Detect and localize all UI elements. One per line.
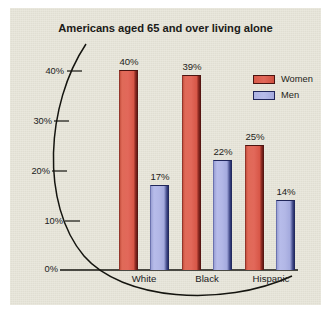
value-label-hispanic-women: 25% (235, 131, 275, 142)
ytick-label-0: 0% (24, 264, 58, 274)
legend-item-women: Women (253, 72, 313, 86)
ytick-label-20: 20% (2, 166, 50, 176)
value-label-black-women: 39% (172, 61, 212, 72)
legend-label-women: Women (281, 74, 313, 84)
chart-figure: Americans aged 65 and over living alone … (0, 0, 333, 321)
ytick-label-10: 10% (15, 216, 63, 226)
value-label-white-women: 40% (109, 56, 149, 67)
value-label-hispanic-men: 14% (266, 186, 306, 197)
ytick-label-40: 40% (16, 66, 64, 76)
bar-hispanic-men (276, 200, 295, 270)
bar-black-women (182, 75, 201, 270)
category-label-black: Black (183, 273, 231, 284)
chart-panel: Americans aged 65 and over living alone … (10, 8, 321, 305)
value-label-white-men: 17% (140, 171, 180, 182)
bar-hispanic-women (245, 145, 264, 270)
category-label-hispanic: Hispanic (241, 273, 301, 284)
bar-black-men (213, 160, 232, 270)
value-label-black-men: 22% (203, 146, 243, 157)
legend-swatch-men-icon (253, 91, 275, 100)
ytick-label-30: 30% (4, 116, 52, 126)
legend-item-men: Men (253, 88, 313, 102)
bar-white-women (119, 70, 138, 270)
legend-label-men: Men (281, 90, 299, 100)
chart-title: Americans aged 65 and over living alone (10, 22, 321, 34)
bar-white-men (150, 185, 169, 270)
category-label-white: White (120, 273, 168, 284)
chart-legend: Women Men (253, 72, 313, 104)
legend-swatch-women-icon (253, 75, 275, 84)
